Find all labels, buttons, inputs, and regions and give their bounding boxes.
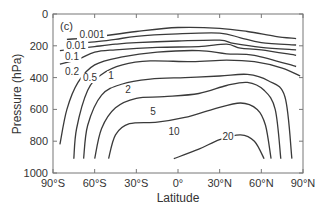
y-tick-label: 200 — [30, 40, 48, 52]
x-tick-label: 30°S — [124, 177, 148, 189]
y-tick-label: 1000 — [24, 167, 48, 179]
contour-label: 1 — [108, 70, 114, 81]
x-tick-label: 60°S — [83, 177, 107, 189]
contour-chart: 0.0010.010.10.20.51251020 90°S60°S30°S0°… — [0, 0, 326, 219]
x-tick-label: 30°N — [207, 177, 232, 189]
y-tick-label: 600 — [30, 103, 48, 115]
contour-line-20 — [174, 135, 264, 159]
contour-label: 0.001 — [79, 29, 104, 40]
y-tick-label: 400 — [30, 72, 48, 84]
x-tick-label: 60°N — [249, 177, 274, 189]
x-tick-label: 0° — [173, 177, 184, 189]
panel-label: (c) — [60, 20, 73, 32]
y-axis-title: Pressure (hPa) — [10, 54, 24, 135]
contour-line-5 — [95, 82, 281, 158]
contour-label: 0.1 — [65, 51, 79, 62]
contour-label: 5 — [150, 106, 156, 117]
contour-label: 0.2 — [65, 66, 79, 77]
contour-line-10 — [109, 103, 272, 159]
contour-label: 0.5 — [83, 72, 97, 83]
contour-label: 20 — [222, 131, 234, 142]
y-tick-label: 800 — [30, 135, 48, 147]
contour-label: 2 — [125, 84, 131, 95]
y-tick-label: 0 — [42, 8, 48, 20]
contour-label: 0.01 — [66, 40, 86, 51]
contour-label: 10 — [168, 126, 180, 137]
x-tick-label: 90°N — [291, 177, 316, 189]
x-axis-title: Latitude — [157, 191, 200, 205]
contour-lines — [60, 27, 300, 158]
